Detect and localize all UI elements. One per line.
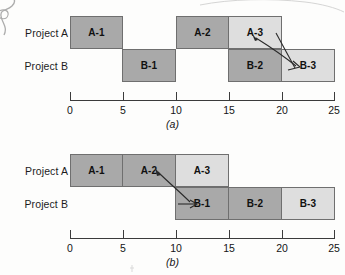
tick-5-a [123, 92, 124, 101]
tick-25-a [334, 92, 335, 101]
bar-a-1[interactable]: A-1 [70, 16, 123, 49]
tick-label-25-a: 25 [321, 104, 345, 116]
row-label-project-b-b: Project B [0, 198, 68, 210]
tick-label-10-a: 10 [163, 104, 189, 116]
tick-label-5-a: 5 [110, 104, 136, 116]
tick-10-a [176, 92, 177, 101]
gantt-chart-b: Project A Project B A-1 A-2 A-3 B-1 B-2 … [0, 138, 345, 275]
x-axis-line-b [70, 238, 335, 239]
bar-b-2[interactable]: B-2 [228, 49, 282, 82]
tick-label-0-a: 0 [57, 104, 83, 116]
gantt-chart-a: Project A Project B A-1 A-2 A-3 B-1 B-2 … [0, 0, 345, 140]
tick-label-5-b: 5 [110, 242, 136, 254]
bar-a-3[interactable]: A-3 [228, 16, 282, 49]
x-axis-line-a [70, 100, 335, 101]
tick-15-a [229, 92, 230, 101]
tick-5-b [123, 230, 124, 239]
row-label-project-a-b: Project A [0, 165, 68, 177]
scan-scribble-mark [0, 0, 36, 38]
tick-label-0-b: 0 [57, 242, 83, 254]
tick-20-b [282, 230, 283, 239]
tick-25-b [334, 230, 335, 239]
scan-smudge-top [200, 0, 345, 16]
bar-b-1[interactable]: B-1 [122, 49, 176, 82]
figure-page: Project A Project B A-1 A-2 A-3 B-1 B-2 … [0, 0, 345, 275]
caption-a: (a) [0, 118, 345, 130]
bar-b-3[interactable]: B-3 [281, 49, 335, 82]
tick-10-b [176, 230, 177, 239]
tick-15-b [229, 230, 230, 239]
row-label-project-b: Project B [0, 60, 68, 72]
tick-label-15-a: 15 [216, 104, 242, 116]
tick-0-a [70, 92, 71, 101]
scan-smudge-bottom [120, 262, 240, 275]
bar-b-b-2[interactable]: B-2 [228, 187, 282, 220]
tick-label-20-b: 20 [269, 242, 295, 254]
bar-a-2[interactable]: A-2 [176, 16, 229, 49]
tick-label-10-b: 10 [163, 242, 189, 254]
bar-b-b-3[interactable]: B-3 [281, 187, 335, 220]
tick-20-a [282, 92, 283, 101]
bar-b-a-1[interactable]: A-1 [70, 154, 123, 187]
tick-label-15-b: 15 [216, 242, 242, 254]
bar-b-a-2[interactable]: A-2 [122, 154, 176, 187]
tick-label-20-a: 20 [269, 104, 295, 116]
tick-label-25-b: 25 [321, 242, 345, 254]
bar-b-a-3[interactable]: A-3 [175, 154, 229, 187]
bar-b-b-1[interactable]: B-1 [175, 187, 229, 220]
tick-0-b [70, 230, 71, 239]
